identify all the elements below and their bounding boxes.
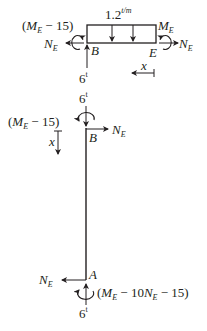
- reaction-label: 6t: [79, 70, 89, 86]
- bottom-moment-label: (ME − 10NE − 15): [97, 285, 189, 302]
- beam-member: [87, 25, 156, 43]
- free-body-diagrams: 1.2t/m (ME − 15) NE B 6t ME NE E x 6t (M…: [0, 0, 207, 331]
- distributed-load-arrows: [112, 25, 133, 41]
- left-moment-label: (ME − 15): [22, 18, 73, 35]
- left-axial-label: NE: [43, 36, 58, 53]
- node-b-column-label: B: [89, 130, 97, 145]
- bottom-axial-label: NE: [38, 272, 53, 289]
- node-e-label: E: [148, 45, 157, 60]
- column-fbd: 6t (ME − 15) NE B x NE A (ME − 10NE − 15…: [8, 90, 189, 321]
- load-label: 1.2t/m: [105, 6, 132, 22]
- top-moment-label: (ME − 15): [8, 114, 59, 131]
- node-b-label: B: [91, 43, 99, 58]
- beam-fbd: 1.2t/m (ME − 15) NE B 6t ME NE E x: [22, 6, 193, 86]
- node-a-label: A: [88, 267, 97, 282]
- column-x-label: x: [48, 134, 55, 149]
- bottom-force-label: 6t: [79, 305, 89, 321]
- right-axial-label: NE: [178, 36, 193, 53]
- beam-x-label: x: [140, 58, 147, 73]
- right-moment-label: ME: [157, 18, 174, 35]
- top-axial-label: NE: [111, 122, 126, 139]
- diagram-canvas: 1.2t/m (ME − 15) NE B 6t ME NE E x 6t (M…: [0, 0, 207, 331]
- top-force-label: 6t: [79, 90, 89, 106]
